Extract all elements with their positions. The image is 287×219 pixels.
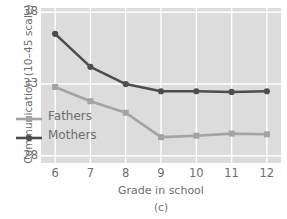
legend-marker-icon — [14, 110, 44, 122]
data-point-mothers — [264, 88, 270, 94]
x-tick-label: 6 — [43, 166, 67, 180]
data-point-fathers — [229, 131, 235, 137]
legend-label: Mothers — [44, 128, 97, 142]
y-tick-label: 28 — [12, 148, 38, 162]
data-point-fathers — [193, 133, 199, 139]
data-point-fathers — [264, 131, 270, 137]
data-point-mothers — [228, 89, 234, 95]
data-point-mothers — [87, 64, 93, 70]
legend-label: Fathers — [44, 109, 92, 123]
x-tick-label: 7 — [78, 166, 102, 180]
legend-item-mothers[interactable]: Mothers — [14, 125, 122, 144]
panel-caption: (c) — [41, 201, 281, 213]
legend-marker-icon — [14, 129, 44, 141]
chart-legend: FathersMothers — [14, 106, 122, 144]
chart-figure: Communication (10–45 scale) 383328 67891… — [0, 0, 287, 219]
x-axis-label: Grade in school — [41, 184, 281, 197]
x-tick-label: 9 — [149, 166, 173, 180]
y-tick-label: 33 — [12, 76, 38, 90]
x-tick-label: 11 — [220, 166, 244, 180]
data-point-mothers — [123, 81, 129, 87]
x-tick-label: 12 — [255, 166, 279, 180]
y-tick-label: 38 — [12, 4, 38, 18]
data-point-fathers — [158, 134, 164, 140]
data-point-fathers — [87, 98, 93, 104]
data-point-mothers — [158, 88, 164, 94]
legend-item-fathers[interactable]: Fathers — [14, 106, 122, 125]
data-point-mothers — [193, 88, 199, 94]
data-point-fathers — [52, 84, 58, 90]
x-tick-label: 10 — [184, 166, 208, 180]
x-axis-tick-labels: 6789101112 — [41, 166, 281, 182]
data-point-mothers — [52, 31, 58, 37]
data-point-fathers — [123, 110, 129, 116]
x-tick-label: 8 — [114, 166, 138, 180]
